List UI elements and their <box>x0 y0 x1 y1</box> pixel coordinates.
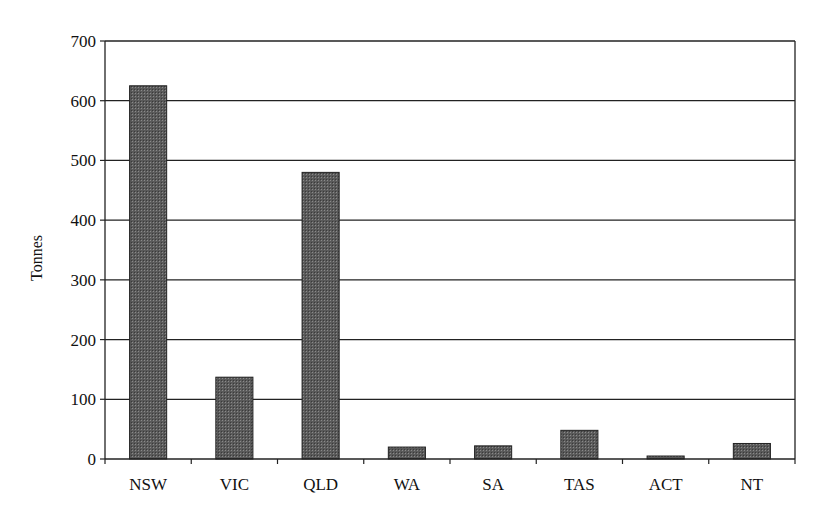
plot-area <box>105 41 795 459</box>
y-tick-label: 700 <box>71 32 97 51</box>
x-category-label: NSW <box>129 475 168 494</box>
x-category-label: QLD <box>303 475 338 494</box>
y-tick-label: 200 <box>71 331 97 350</box>
x-category-label: SA <box>482 475 504 494</box>
bar-tas <box>561 430 598 459</box>
y-tick-label: 100 <box>71 390 97 409</box>
bar-vic <box>216 377 253 459</box>
bars <box>130 86 771 459</box>
bar-nsw <box>130 86 167 459</box>
bar-sa <box>475 446 512 459</box>
x-category-label: NT <box>741 475 764 494</box>
axes <box>100 41 795 464</box>
bar-nt <box>733 443 770 459</box>
y-tick-label: 600 <box>71 92 97 111</box>
bar-qld <box>302 172 339 459</box>
x-category-label: WA <box>394 475 421 494</box>
y-tick-label: 400 <box>71 211 97 230</box>
x-category-label: VIC <box>220 475 249 494</box>
y-axis-tick-labels: 0100200300400500600700 <box>71 32 97 469</box>
bar-chart: 0100200300400500600700 NSWVICQLDWASATASA… <box>0 0 817 520</box>
y-tick-label: 300 <box>71 271 97 290</box>
x-category-label: TAS <box>564 475 595 494</box>
gridlines <box>105 101 795 400</box>
bar-wa <box>388 447 425 459</box>
y-tick-label: 0 <box>88 450 97 469</box>
y-tick-label: 500 <box>71 151 97 170</box>
x-category-label: ACT <box>649 475 684 494</box>
x-axis-category-labels: NSWVICQLDWASATASACTNT <box>129 475 764 494</box>
y-axis-label: Tonnes <box>28 235 45 281</box>
